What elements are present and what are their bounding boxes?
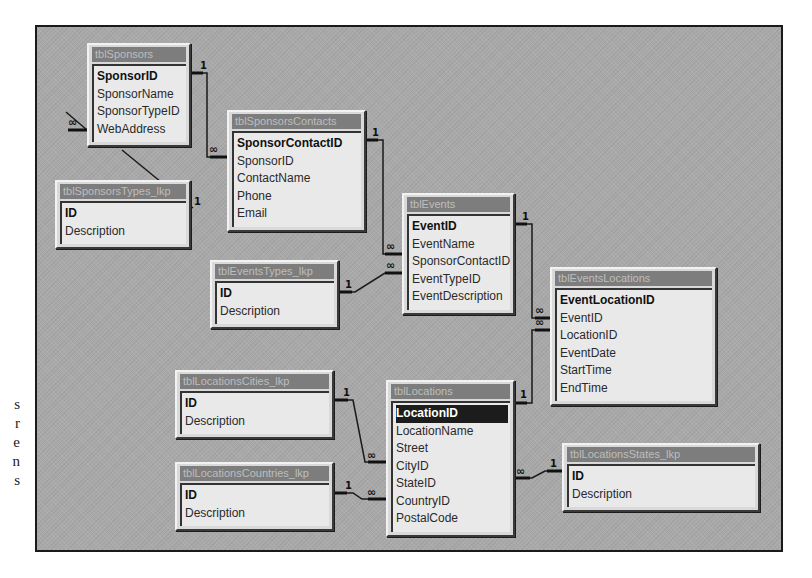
field-primary-key[interactable]: SponsorID <box>97 68 186 86</box>
cardinality-one-label: 1 <box>550 458 557 469</box>
cardinality-one-label: 1 <box>345 480 352 491</box>
table-title[interactable]: tblEventsTypes_lkp <box>215 264 334 279</box>
field[interactable]: Street <box>396 440 510 458</box>
table-title[interactable]: tblSponsors <box>92 47 186 62</box>
field-primary-key[interactable]: SponsorContactID <box>237 135 361 153</box>
field[interactable]: CountryID <box>396 493 510 511</box>
margin-char: n <box>0 452 20 471</box>
field[interactable]: EventID <box>560 310 712 328</box>
field-list: EventLocationID EventID LocationID Event… <box>555 288 712 401</box>
field-primary-key[interactable]: ID <box>572 468 755 486</box>
table-title[interactable]: tblEventsLocations <box>555 271 712 286</box>
table-title[interactable]: tblLocationsCountries_lkp <box>180 466 329 481</box>
table-title[interactable]: tblEvents <box>407 197 510 212</box>
cardinality-one-label: 1 <box>372 127 379 138</box>
table-tblSponsors[interactable]: tblSponsors SponsorID SponsorName Sponso… <box>87 43 191 147</box>
field[interactable]: LocationName <box>396 423 510 441</box>
field-primary-key[interactable]: ID <box>185 395 329 413</box>
field-list: ID Description <box>60 201 186 244</box>
table-title[interactable]: tblSponsorsContacts <box>232 114 361 129</box>
field[interactable]: Phone <box>237 188 361 206</box>
margin-char: r <box>0 414 20 433</box>
cardinality-many-label: ∞ <box>535 316 543 329</box>
table-title[interactable]: tblLocations <box>391 384 510 399</box>
field-list: EventID EventName SponsorContactID Event… <box>407 214 510 310</box>
field[interactable]: WebAddress <box>97 121 186 139</box>
field[interactable]: StartTime <box>560 362 712 380</box>
field[interactable]: EventTypeID <box>412 271 510 289</box>
field-list: SponsorID SponsorName SponsorTypeID WebA… <box>92 64 186 142</box>
cardinality-one-label: 1 <box>345 279 352 290</box>
field[interactable]: CityID <box>396 458 510 476</box>
field[interactable]: PostalCode <box>396 510 510 528</box>
cardinality-many-label: ∞ <box>386 259 394 272</box>
field[interactable]: ContactName <box>237 170 361 188</box>
cardinality-one-label: 1 <box>520 389 527 400</box>
field[interactable]: EndTime <box>560 380 712 398</box>
field-primary-key[interactable]: ID <box>220 285 334 303</box>
field-primary-key[interactable]: EventLocationID <box>560 292 712 310</box>
margin-char: e <box>0 433 20 452</box>
field-list: ID Description <box>180 483 329 526</box>
field[interactable]: SponsorID <box>237 153 361 171</box>
field[interactable]: Description <box>572 486 755 504</box>
table-tblSponsorsTypes_lkp[interactable]: tblSponsorsTypes_lkp ID Description <box>55 180 191 249</box>
table-tblSponsorsContacts[interactable]: tblSponsorsContacts SponsorContactID Spo… <box>227 110 366 232</box>
table-tblEventsLocations[interactable]: tblEventsLocations EventLocationID Event… <box>550 267 717 406</box>
field[interactable]: Description <box>185 413 329 431</box>
field[interactable]: StateID <box>396 475 510 493</box>
field-list: LocationID LocationName Street CityID St… <box>391 401 510 532</box>
field[interactable]: EventName <box>412 236 510 254</box>
field-list: ID Description <box>215 281 334 324</box>
clipped-margin-text: s r e n s <box>0 395 20 490</box>
cardinality-one-label: 1 <box>194 196 201 207</box>
margin-char: s <box>0 471 20 490</box>
cardinality-many-label: ∞ <box>68 116 76 129</box>
field[interactable]: Email <box>237 205 361 223</box>
cardinality-many-label: ∞ <box>367 449 375 462</box>
field-primary-key-selected[interactable]: LocationID <box>396 405 508 423</box>
cardinality-many-label: ∞ <box>367 486 375 499</box>
cardinality-many-label: ∞ <box>516 465 524 478</box>
table-tblLocationsCities_lkp[interactable]: tblLocationsCities_lkp ID Description <box>175 370 334 439</box>
table-tblEventsTypes_lkp[interactable]: tblEventsTypes_lkp ID Description <box>210 260 339 329</box>
field-primary-key[interactable]: ID <box>185 487 329 505</box>
field-list: ID Description <box>567 464 755 507</box>
field[interactable]: Description <box>220 303 334 321</box>
table-tblLocations[interactable]: tblLocations LocationID LocationName Str… <box>386 380 515 537</box>
cardinality-one-label: 1 <box>200 60 207 71</box>
table-tblEvents[interactable]: tblEvents EventID EventName SponsorConta… <box>402 193 515 315</box>
field-list: SponsorContactID SponsorID ContactName P… <box>232 131 361 227</box>
table-title[interactable]: tblLocationsStates_lkp <box>567 447 755 462</box>
table-title[interactable]: tblLocationsCities_lkp <box>180 374 329 389</box>
field-primary-key[interactable]: ID <box>65 205 186 223</box>
field[interactable]: Description <box>185 505 329 523</box>
field[interactable]: SponsorName <box>97 86 186 104</box>
field[interactable]: EventDate <box>560 345 712 363</box>
field-list: ID Description <box>180 391 329 434</box>
cardinality-many-label: ∞ <box>386 240 394 253</box>
table-title[interactable]: tblSponsorsTypes_lkp <box>60 184 186 199</box>
field-primary-key[interactable]: EventID <box>412 218 510 236</box>
table-tblLocationsStates_lkp[interactable]: tblLocationsStates_lkp ID Description <box>562 443 760 512</box>
field[interactable]: EventDescription <box>412 288 510 306</box>
field[interactable]: SponsorTypeID <box>97 103 186 121</box>
cardinality-one-label: 1 <box>522 211 529 222</box>
field[interactable]: Description <box>65 223 186 241</box>
table-tblLocationsCountries_lkp[interactable]: tblLocationsCountries_lkp ID Description <box>175 462 334 531</box>
cardinality-one-label: 1 <box>343 387 350 398</box>
field[interactable]: SponsorContactID <box>412 253 510 271</box>
field[interactable]: LocationID <box>560 327 712 345</box>
margin-char: s <box>0 395 20 414</box>
cardinality-many-label: ∞ <box>209 143 217 156</box>
